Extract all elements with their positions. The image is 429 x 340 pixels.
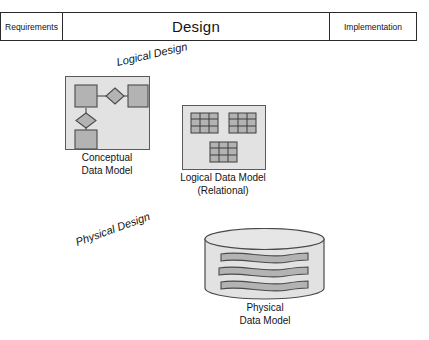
logical-data-model-caption: Logical Data Model (Relational) [163,172,283,197]
caption-line-1: Logical Data Model [163,172,283,185]
phase-label-implementation: Implementation [344,22,402,32]
physical-data-model-caption: Physical Data Model [205,302,325,327]
relational-table [191,113,218,133]
phase-cell-requirements: Requirements [1,13,63,40]
relational-table [229,113,256,133]
step-label-logical-design: Logical Design [115,40,188,68]
physical-data-model-panel [203,228,326,302]
phase-label-requirements: Requirements [5,22,58,32]
database-cylinder-icon [203,228,326,302]
entity-relationship-diagram-icon [66,77,149,149]
caption-line-1: Physical [205,302,325,315]
relational-table [210,142,237,162]
data-modeling-phases-figure: Requirements Design Implementation Logic… [0,0,429,340]
caption-line-1: Conceptual [47,152,167,165]
conceptual-data-model-panel [65,76,150,150]
phase-bar: Requirements Design Implementation [0,12,417,41]
conceptual-data-model-caption: Conceptual Data Model [47,152,167,177]
phase-cell-implementation: Implementation [330,13,416,40]
phase-label-design: Design [172,18,220,35]
caption-line-2: Data Model [47,165,167,178]
caption-line-2: Data Model [205,315,325,328]
relational-tables-icon [183,106,265,169]
caption-line-2: (Relational) [163,185,283,198]
phase-cell-design: Design [63,13,330,40]
step-label-physical-design: Physical Design [74,210,152,248]
logical-data-model-panel [182,105,266,170]
